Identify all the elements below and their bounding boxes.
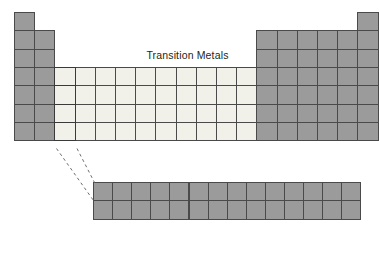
element-cell-group-6-period-5: [115, 85, 136, 104]
element-cell-group-7-period-4: [135, 67, 156, 86]
element-cell-group-10-period-7: [196, 122, 217, 141]
element-cell-group-14-period-6: [277, 104, 298, 123]
element-cell-group-11-period-6: [216, 104, 237, 123]
f-block-cell-row-1-col-10: [265, 182, 285, 201]
element-cell-group-7-period-6: [135, 104, 156, 123]
element-cell-group-2-period-4: [34, 67, 55, 86]
element-cell-group-7-period-7: [135, 122, 156, 141]
f-block-cell-row-1-col-7: [208, 182, 228, 201]
element-cell-group-1-period-6: [14, 104, 35, 123]
element-cell-group-6-period-4: [115, 67, 136, 86]
f-block-cell-row-2-col-1: [93, 200, 113, 219]
element-cell-group-15-period-5: [297, 85, 318, 104]
element-cell-group-14-period-2: [277, 30, 298, 49]
element-cell-group-9-period-4: [176, 67, 197, 86]
element-cell-group-9-period-7: [176, 122, 197, 141]
element-cell-group-17-period-4: [337, 67, 358, 86]
element-cell-group-17-period-3: [337, 49, 358, 68]
f-block-cell-row-2-col-2: [112, 200, 132, 219]
element-cell-group-10-period-5: [196, 85, 217, 104]
element-cell-group-4-period-6: [75, 104, 96, 123]
element-cell-group-15-period-4: [297, 67, 318, 86]
f-block-cell-row-1-col-12: [303, 182, 323, 201]
element-cell-group-16-period-2: [317, 30, 338, 49]
f-block-cell-row-1-col-1: [93, 182, 113, 201]
f-block-cell-row-2-col-14: [341, 200, 361, 219]
element-cell-group-4-period-4: [75, 67, 96, 86]
f-block-cell-row-2-col-13: [322, 200, 342, 219]
f-block-cell-row-2-col-3: [131, 200, 151, 219]
element-cell-group-11-period-5: [216, 85, 237, 104]
element-cell-group-5-period-6: [95, 104, 116, 123]
f-block-cell-row-2-col-10: [265, 200, 285, 219]
connector-line-2: [77, 149, 95, 183]
element-cell-group-17-period-6: [337, 104, 358, 123]
element-cell-group-16-period-4: [317, 67, 338, 86]
element-cell-group-14-period-7: [277, 122, 298, 141]
element-cell-group-17-period-7: [337, 122, 358, 141]
element-cell-group-17-period-5: [337, 85, 358, 104]
element-cell-group-9-period-5: [176, 85, 197, 104]
element-cell-group-18-period-2: [357, 30, 378, 49]
element-cell-group-2-period-5: [34, 85, 55, 104]
element-cell-group-13-period-4: [256, 67, 277, 86]
element-cell-group-10-period-6: [196, 104, 217, 123]
f-block-cell-row-1-col-4: [150, 182, 170, 201]
element-cell-group-2-period-2: [34, 30, 55, 49]
f-block-cell-row-1-col-13: [322, 182, 342, 201]
element-cell-group-4-period-5: [75, 85, 96, 104]
element-cell-group-1-period-1: [14, 12, 35, 31]
f-block-cell-row-2-col-7: [208, 200, 228, 219]
f-block-cell-row-2-col-8: [227, 200, 247, 219]
f-block-cell-row-1-col-9: [246, 182, 266, 201]
element-cell-group-16-period-5: [317, 85, 338, 104]
element-cell-group-16-period-7: [317, 122, 338, 141]
element-cell-group-12-period-5: [236, 85, 257, 104]
element-cell-group-3-period-4: [54, 67, 75, 86]
element-cell-group-14-period-3: [277, 49, 298, 68]
f-block-cell-row-1-col-3: [131, 182, 151, 201]
element-cell-group-16-period-3: [317, 49, 338, 68]
element-cell-group-1-period-2: [14, 30, 35, 49]
element-cell-group-5-period-5: [95, 85, 116, 104]
element-cell-group-8-period-4: [155, 67, 176, 86]
element-cell-group-13-period-3: [256, 49, 277, 68]
element-cell-group-2-period-6: [34, 104, 55, 123]
element-cell-group-14-period-4: [277, 67, 298, 86]
element-cell-group-8-period-6: [155, 104, 176, 123]
element-cell-group-14-period-5: [277, 85, 298, 104]
element-cell-group-18-period-4: [357, 67, 378, 86]
element-cell-group-8-period-7: [155, 122, 176, 141]
element-cell-group-1-period-3: [14, 49, 35, 68]
f-block-cell-row-2-col-12: [303, 200, 323, 219]
element-cell-group-16-period-6: [317, 104, 338, 123]
element-cell-group-15-period-6: [297, 104, 318, 123]
element-cell-group-12-period-4: [236, 67, 257, 86]
element-cell-group-18-period-3: [357, 49, 378, 68]
element-cell-group-3-period-7: [54, 122, 75, 141]
element-cell-group-2-period-3: [34, 49, 55, 68]
element-cell-group-18-period-5: [357, 85, 378, 104]
f-block-cell-row-1-col-2: [112, 182, 132, 201]
f-block-cell-row-1-col-6: [189, 182, 209, 201]
element-cell-group-13-period-2: [256, 30, 277, 49]
element-cell-group-11-period-7: [216, 122, 237, 141]
element-cell-group-12-period-6: [236, 104, 257, 123]
f-block-cell-row-2-col-5: [169, 200, 189, 219]
f-block-cell-row-1-col-5: [169, 182, 189, 201]
element-cell-group-17-period-2: [337, 30, 358, 49]
element-cell-group-5-period-7: [95, 122, 116, 141]
f-block-cell-row-2-col-11: [284, 200, 304, 219]
element-cell-group-13-period-7: [256, 122, 277, 141]
element-cell-group-7-period-5: [135, 85, 156, 104]
f-block-cell-row-2-col-4: [150, 200, 170, 219]
element-cell-group-8-period-5: [155, 85, 176, 104]
element-cell-group-15-period-3: [297, 49, 318, 68]
f-block-cell-row-2-col-9: [246, 200, 266, 219]
f-block-cell-row-2-col-6: [189, 200, 209, 219]
element-cell-group-11-period-4: [216, 67, 237, 86]
element-cell-group-12-period-7: [236, 122, 257, 141]
f-block-cell-row-1-col-14: [341, 182, 361, 201]
element-cell-group-18-period-6: [357, 104, 378, 123]
